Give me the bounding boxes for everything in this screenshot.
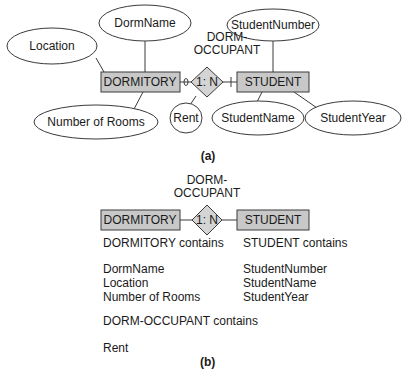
relationship-name-line1: DORM- (207, 30, 248, 44)
caption-b: (b) (200, 355, 215, 369)
student-attr-item: StudentName (243, 276, 327, 290)
entity-student-label: STUDENT (245, 75, 302, 89)
dormitory-attr-item: Number of Rooms (103, 290, 200, 304)
dormitory-attr-list: DormName Location Number of Rooms (103, 262, 200, 304)
entity-dormitory-b-label: DORMITORY (104, 213, 177, 227)
attr-studentyear: StudentYear (320, 111, 386, 125)
relationship-b-name-line2: OCCUPANT (174, 186, 241, 200)
caption-a: (a) (201, 149, 216, 163)
attr-number-of-rooms: Number of Rooms (47, 115, 144, 129)
attr-studentname: StudentName (221, 111, 295, 125)
attr-location: Location (29, 39, 74, 53)
student-attr-list: StudentNumber StudentName StudentYear (243, 262, 327, 304)
dormitory-attr-item: Location (103, 276, 200, 290)
student-attr-item: StudentYear (243, 290, 327, 304)
dormitory-attr-item: DormName (103, 262, 200, 276)
attr-dormname: DormName (114, 16, 176, 30)
diagram-b-labels: DORM- OCCUPANT DORMITORY STUDENT 1: N (104, 173, 302, 227)
entity-student-b-label: STUDENT (245, 213, 302, 227)
student-contains-heading: STUDENT contains (243, 236, 347, 250)
relationship-b-name-line1: DORM- (187, 173, 228, 187)
relationship-name-line2: OCCUPANT (194, 43, 261, 57)
dormitory-contains-heading: DORMITORY contains (103, 236, 224, 250)
relationship-attr-item: Rent (103, 341, 128, 355)
attr-rent: Rent (173, 111, 199, 125)
student-attr-item: StudentNumber (243, 262, 327, 276)
relationship-cardinality: 1: N (196, 75, 218, 89)
relationship-b-cardinality: 1: N (196, 213, 218, 227)
relationship-contains-heading: DORM-OCCUPANT contains (103, 314, 258, 328)
entity-dormitory-label: DORMITORY (104, 75, 177, 89)
